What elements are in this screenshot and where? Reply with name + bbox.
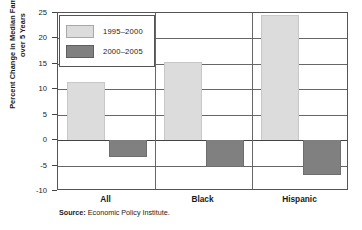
legend-label: 2000–2005	[103, 47, 143, 56]
category-separator	[155, 13, 156, 189]
legend-swatch-icon	[66, 25, 94, 38]
y-tick-label: -5	[17, 160, 47, 169]
x-axis-label: Black	[191, 194, 213, 204]
bar[interactable]	[164, 62, 202, 140]
y-tick-label: -10	[17, 186, 47, 195]
legend-item[interactable]: 1995–2000	[66, 21, 148, 41]
source-label: Source:	[59, 208, 86, 217]
chart-legend: 1995–2000 2000–2005	[59, 15, 155, 67]
x-axis-label: Hispanic	[282, 194, 317, 204]
x-axis-label: All	[100, 194, 111, 204]
legend-item[interactable]: 2000–2005	[66, 41, 148, 61]
source-note: Source: Economic Policy Institute.	[59, 208, 170, 217]
bar[interactable]	[206, 140, 244, 166]
bar[interactable]	[303, 140, 341, 175]
y-axis-title: Percent Change in Median Family Income o…	[5, 0, 31, 115]
chart-figure: Percent Change in Median Family Income o…	[0, 0, 362, 230]
bar[interactable]	[109, 140, 147, 157]
category-separator	[252, 13, 253, 189]
legend-label: 1995–2000	[103, 27, 143, 36]
y-tick-mark	[52, 190, 57, 191]
source-value: Economic Policy Institute.	[88, 208, 170, 217]
legend-swatch-icon	[66, 45, 94, 58]
y-tick-label: 0	[17, 135, 47, 144]
bar[interactable]	[261, 15, 299, 141]
bar[interactable]	[67, 82, 105, 140]
